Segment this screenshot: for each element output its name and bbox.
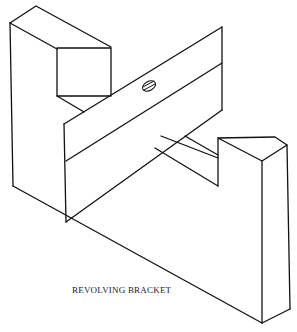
figure-caption: REVOLVING BRACKET — [72, 285, 171, 295]
right-block — [218, 137, 290, 323]
left-upright — [10, 23, 262, 323]
left-block — [10, 6, 111, 112]
revolving-bar — [64, 27, 222, 222]
pivot-screw — [141, 79, 158, 94]
bar-channel — [155, 136, 218, 186]
revolving-bracket-drawing — [0, 0, 297, 332]
